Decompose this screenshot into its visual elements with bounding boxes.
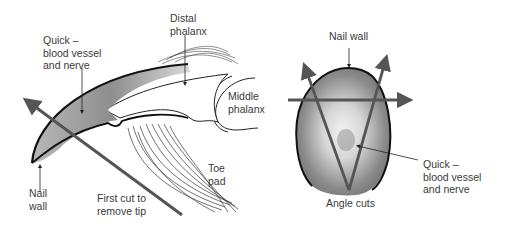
label-toe-pad: Toe pad [208,162,226,187]
label-quick-left: Quick – blood vessel and nerve [43,34,101,72]
label-nail-wall-left: Nail wall [29,187,47,212]
front-view-claw [288,48,418,195]
fur-tuft [158,46,238,64]
label-nail-wall-right: Nail wall [329,30,368,43]
label-quick-right: Quick – blood vessel and nerve [423,158,481,196]
label-middle-phalanx: Middle phalanx [228,90,265,115]
label-angle-cuts: Angle cuts [326,197,375,210]
label-distal-phalanx: Distal phalanx [170,12,207,37]
label-first-cut: First cut to remove tip [97,192,146,217]
